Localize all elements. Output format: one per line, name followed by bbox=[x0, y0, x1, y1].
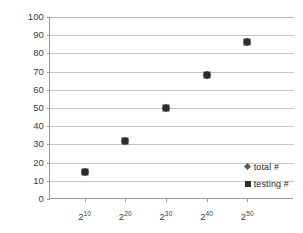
y-axis-tick-label: 60 bbox=[6, 85, 44, 94]
y-tick-mark bbox=[47, 181, 50, 182]
x-axis-tick-label: 230 bbox=[146, 209, 186, 222]
y-tick-mark bbox=[47, 35, 50, 36]
y-axis-tick-label: 50 bbox=[6, 103, 44, 112]
x-tick-mark bbox=[207, 199, 208, 202]
gridline bbox=[50, 72, 294, 73]
y-axis-tick-label: 90 bbox=[6, 30, 44, 39]
y-axis-tick-label: 40 bbox=[6, 121, 44, 130]
y-tick-mark bbox=[47, 144, 50, 145]
legend-item-testing[interactable]: testing # bbox=[244, 175, 289, 192]
x-tick-mark bbox=[125, 199, 126, 202]
x-axis-tick-label: 210 bbox=[65, 209, 105, 222]
y-axis-tick-label: 100 bbox=[6, 12, 44, 21]
legend-label-testing: testing # bbox=[254, 179, 289, 189]
data-point bbox=[81, 168, 88, 175]
y-tick-mark bbox=[47, 163, 50, 164]
y-axis-tick-label: 0 bbox=[6, 194, 44, 203]
data-point bbox=[122, 137, 129, 144]
diamond-marker-icon bbox=[244, 163, 251, 170]
y-axis-tick-label: 80 bbox=[6, 48, 44, 57]
x-tick-mark bbox=[247, 199, 248, 202]
data-point bbox=[203, 72, 210, 79]
x-axis-tick-label: 250 bbox=[227, 209, 267, 222]
plot-area: 1009080706050403020100 210220230240250 t… bbox=[49, 17, 293, 199]
gridline bbox=[50, 126, 294, 127]
legend-item-total[interactable]: total # bbox=[244, 158, 289, 175]
y-tick-mark bbox=[47, 108, 50, 109]
gridline bbox=[50, 108, 294, 109]
data-point bbox=[163, 105, 170, 112]
x-axis-tick-label: 220 bbox=[105, 209, 145, 222]
square-marker-icon bbox=[245, 181, 251, 187]
scatter-chart: 1009080706050403020100 210220230240250 t… bbox=[0, 0, 303, 233]
x-tick-mark bbox=[166, 199, 167, 202]
gridline bbox=[50, 53, 294, 54]
y-axis-tick-label: 10 bbox=[6, 176, 44, 185]
gridline bbox=[50, 90, 294, 91]
y-axis-tick-label: 70 bbox=[6, 67, 44, 76]
y-tick-mark bbox=[47, 17, 50, 18]
x-axis-tick-label: 240 bbox=[187, 209, 227, 222]
data-point bbox=[244, 39, 251, 46]
gridline bbox=[50, 17, 294, 18]
gridline bbox=[50, 35, 294, 36]
legend-label-total: total # bbox=[254, 162, 280, 172]
y-axis-tick-label: 20 bbox=[6, 158, 44, 167]
y-axis-tick-label: 30 bbox=[6, 139, 44, 148]
y-tick-mark bbox=[47, 199, 50, 200]
chart-legend: total # testing # bbox=[244, 158, 289, 192]
y-tick-mark bbox=[47, 90, 50, 91]
gridline bbox=[50, 144, 294, 145]
x-tick-mark bbox=[85, 199, 86, 202]
y-tick-mark bbox=[47, 126, 50, 127]
y-tick-mark bbox=[47, 72, 50, 73]
y-tick-mark bbox=[47, 53, 50, 54]
